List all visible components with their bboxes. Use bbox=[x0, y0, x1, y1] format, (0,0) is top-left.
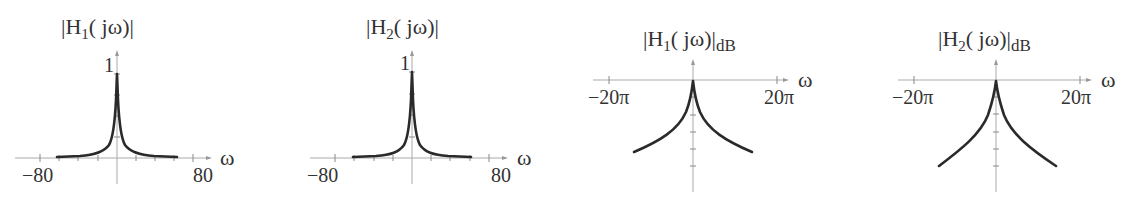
plot-h2-magnitude: |H2( jω)| −80 80 1 ω bbox=[307, 14, 531, 186]
plot-h2-magnitude-db: |H2( jω)|dB −20π 20π ω bbox=[892, 26, 1115, 192]
x-axis-arrow-icon bbox=[1086, 78, 1092, 82]
x-min-label: −80 bbox=[307, 164, 338, 186]
x-max-label: 20π bbox=[764, 86, 794, 108]
x-min-label: −20π bbox=[892, 86, 933, 108]
x-min-label: −20π bbox=[588, 86, 629, 108]
x-max-label: 80 bbox=[491, 164, 511, 186]
plot-h1-magnitude-db: |H1( jω)|dB −20π 20π ω bbox=[588, 26, 812, 192]
y-axis-arrow-icon bbox=[691, 59, 695, 65]
plot-title: |H2( jω)| bbox=[366, 14, 439, 42]
omega-axis-label: ω bbox=[220, 145, 234, 170]
y-top-label: 1 bbox=[400, 52, 410, 74]
plot-h1-magnitude: |H1( jω)| −80 80 1 ω bbox=[15, 14, 234, 186]
omega-axis-label: ω bbox=[1101, 67, 1115, 92]
magnitude-db-curve bbox=[939, 81, 1056, 166]
x-axis-arrow-icon bbox=[783, 78, 789, 82]
y-axis-arrow-icon bbox=[115, 50, 119, 56]
omega-axis-label: ω bbox=[798, 67, 812, 92]
x-axis-arrow-icon bbox=[206, 156, 212, 160]
x-min-label: −80 bbox=[22, 164, 53, 186]
figure-canvas: |H1( jω)| −80 80 1 ω |H2( jω)| bbox=[0, 0, 1125, 202]
plot-title: |H1( jω)|dB bbox=[643, 26, 736, 55]
x-max-label: 20π bbox=[1061, 86, 1091, 108]
plot-title: |H1( jω)| bbox=[61, 14, 134, 42]
y-top-label: 1 bbox=[104, 54, 114, 76]
x-axis-arrow-icon bbox=[502, 156, 508, 160]
y-axis-arrow-icon bbox=[410, 50, 414, 56]
y-axis-arrow-icon bbox=[994, 59, 998, 65]
plot-title: |H2( jω)|dB bbox=[938, 26, 1031, 55]
omega-axis-label: ω bbox=[517, 145, 531, 170]
x-max-label: 80 bbox=[193, 164, 213, 186]
